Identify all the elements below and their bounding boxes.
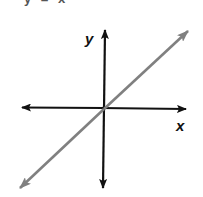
y-axis-negative xyxy=(103,106,104,188)
x-axis-positive xyxy=(100,108,186,109)
line-y-equals-x-lower xyxy=(20,109,104,188)
x-axis-label: x xyxy=(175,117,185,134)
coordinate-plane: y x xyxy=(0,0,203,197)
y-axis-label: y xyxy=(84,30,94,47)
y-axis xyxy=(104,30,105,110)
line-y-equals-x xyxy=(104,31,188,109)
x-axis xyxy=(22,108,104,109)
